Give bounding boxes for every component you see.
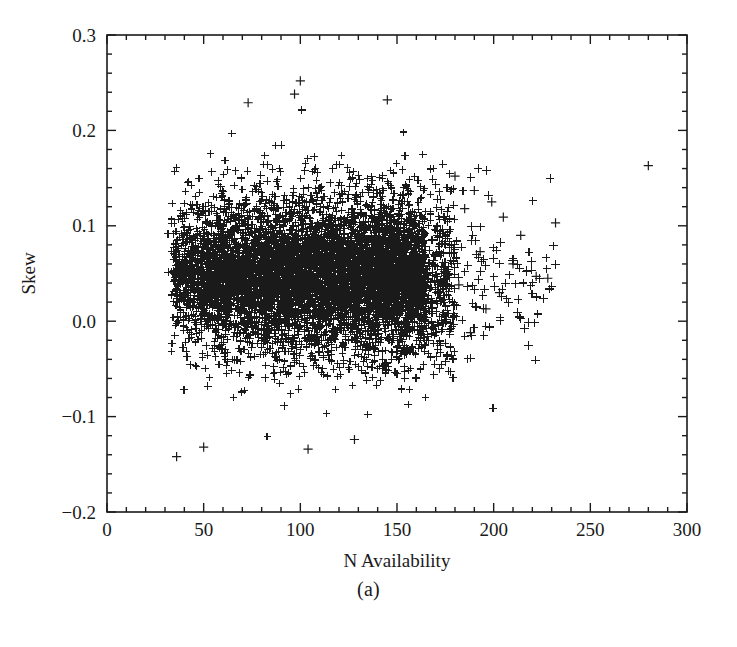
x-tick-label: 100: [286, 519, 315, 540]
x-tick-label: 300: [673, 519, 702, 540]
chart-canvas: 050100150200250300−0.2−0.10.00.10.20.3N …: [0, 0, 737, 580]
y-tick-label: −0.2: [62, 502, 96, 523]
scatter-plot: 050100150200250300−0.2−0.10.00.10.20.3N …: [0, 0, 737, 580]
y-tick-label: 0.2: [72, 120, 96, 141]
x-tick-label: 200: [479, 519, 508, 540]
y-tick-label: 0.0: [72, 311, 96, 332]
y-tick-label: −0.1: [62, 406, 96, 427]
y-tick-label: 0.3: [72, 25, 96, 46]
x-tick-label: 50: [194, 519, 213, 540]
figure-caption: (a): [0, 578, 737, 601]
x-tick-label: 0: [102, 519, 112, 540]
figure-panel: 050100150200250300−0.2−0.10.00.10.20.3N …: [0, 0, 737, 647]
x-tick-label: 150: [383, 519, 412, 540]
x-axis-title: N Availability: [344, 550, 451, 571]
x-tick-label: 250: [576, 519, 605, 540]
y-tick-label: 0.1: [72, 215, 96, 236]
y-axis-title: Skew: [18, 252, 39, 295]
